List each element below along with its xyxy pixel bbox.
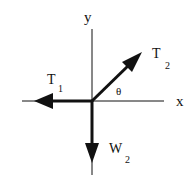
w2-subscript: 2 [125, 154, 130, 165]
free-body-diagram: y x T 1 T 2 W 2 θ [0, 0, 192, 183]
t1-force-arrow [34, 93, 92, 109]
t1-label: T [47, 72, 56, 87]
w2-label: W [109, 141, 123, 156]
t1-subscript: 1 [58, 83, 63, 94]
x-axis-label: x [176, 93, 184, 109]
t2-label: T [152, 46, 161, 61]
w2-force-arrow [85, 101, 99, 163]
theta-angle-label: θ [116, 85, 121, 97]
t2-subscript: 2 [165, 60, 170, 71]
y-axis-label: y [84, 9, 92, 25]
